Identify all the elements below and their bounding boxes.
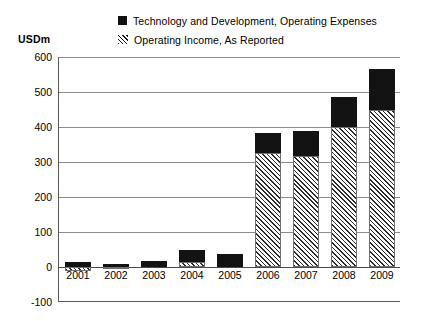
bar-segment-expenses[interactable] bbox=[293, 131, 319, 156]
y-tick-label: 600 bbox=[8, 52, 52, 62]
y-tick-label: 400 bbox=[8, 122, 52, 132]
x-tick-label: 2008 bbox=[324, 270, 364, 281]
bar-group-2003[interactable] bbox=[141, 57, 167, 302]
bar-segment-expenses[interactable] bbox=[179, 250, 205, 262]
bar-segment-expenses[interactable] bbox=[255, 133, 281, 153]
bar-group-2008[interactable] bbox=[331, 57, 357, 302]
bar-group-2009[interactable] bbox=[369, 57, 395, 302]
y-tick-label: 300 bbox=[8, 157, 52, 167]
bar-group-2004[interactable] bbox=[179, 57, 205, 302]
x-tick-label: 2009 bbox=[362, 270, 402, 281]
bar-group-2006[interactable] bbox=[255, 57, 281, 302]
bar-segment-expenses[interactable] bbox=[103, 264, 129, 268]
y-axis-unit-label: USDm bbox=[18, 33, 50, 45]
x-tick-label: 2002 bbox=[96, 270, 136, 281]
bar-segment-operating-income[interactable] bbox=[179, 262, 205, 267]
hatched-square-icon bbox=[118, 35, 128, 44]
solid-square-icon bbox=[118, 16, 127, 25]
bar-segment-operating-income[interactable] bbox=[293, 156, 319, 267]
legend-label-expenses: Technology and Development, Operating Ex… bbox=[133, 15, 377, 27]
y-axis-tick-labels: 6005004003002001000-100 bbox=[0, 57, 52, 302]
y-tick-label: 100 bbox=[8, 227, 52, 237]
plot-area: 200120022003200420052006200720082009 bbox=[58, 57, 400, 302]
x-tick-label: 2005 bbox=[210, 270, 250, 281]
legend-item-operating-income: Operating Income, As Reported bbox=[118, 31, 408, 48]
bar-group-2002[interactable] bbox=[103, 57, 129, 302]
bar-segment-expenses[interactable] bbox=[217, 254, 243, 267]
y-tick-label: 500 bbox=[8, 87, 52, 97]
bar-segment-expenses[interactable] bbox=[141, 261, 167, 267]
legend-item-expenses: Technology and Development, Operating Ex… bbox=[118, 12, 408, 29]
x-tick-label: 2003 bbox=[134, 270, 174, 281]
y-tick-label: 0 bbox=[8, 262, 52, 272]
bar-segment-operating-income[interactable] bbox=[369, 110, 395, 268]
bar-group-2001[interactable] bbox=[65, 57, 91, 302]
x-tick-label: 2007 bbox=[286, 270, 326, 281]
bar-segment-expenses[interactable] bbox=[65, 262, 91, 267]
bar-group-2007[interactable] bbox=[293, 57, 319, 302]
bar-segment-expenses[interactable] bbox=[331, 97, 357, 127]
chart-legend: Technology and Development, Operating Ex… bbox=[118, 12, 408, 50]
bar-segment-operating-income[interactable] bbox=[331, 127, 357, 267]
y-tick-label: -100 bbox=[8, 297, 52, 307]
x-tick-label: 2006 bbox=[248, 270, 288, 281]
x-tick-label: 2004 bbox=[172, 270, 212, 281]
bar-group-2005[interactable] bbox=[217, 57, 243, 302]
x-tick-label: 2001 bbox=[58, 270, 98, 281]
legend-label-operating-income: Operating Income, As Reported bbox=[134, 34, 284, 46]
bar-segment-operating-income[interactable] bbox=[255, 153, 281, 267]
bar-segment-expenses[interactable] bbox=[369, 69, 395, 109]
y-tick-label: 200 bbox=[8, 192, 52, 202]
